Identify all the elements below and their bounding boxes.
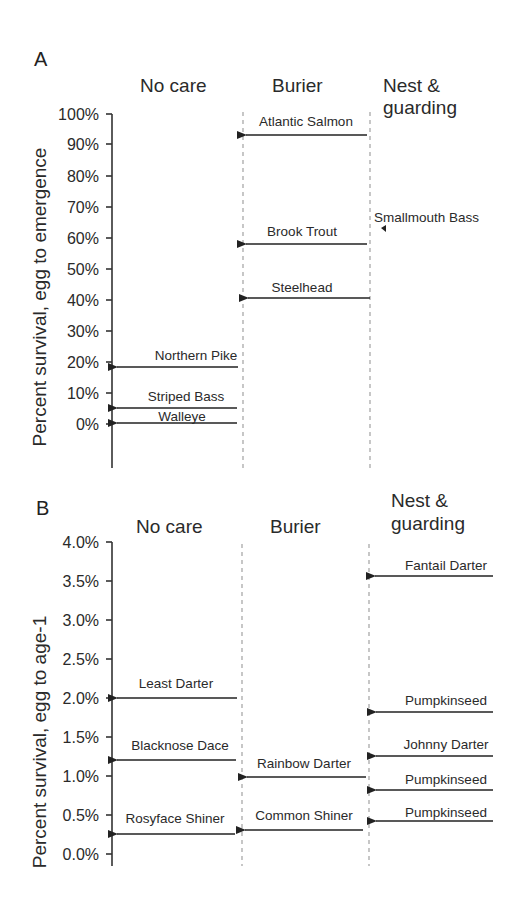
label-rainbow-darter: Rainbow Darter [257,756,351,771]
panel-b-y-axis-label: Percent survival, egg to age-1 [29,616,50,868]
label-brook-trout: Brook Trout [267,224,337,239]
tick-label: 3.0% [63,612,99,629]
label-fantail-darter: Fantail Darter [405,558,487,573]
label-smallmouth-bass: Smallmouth Bass [374,210,479,225]
panel-b-group-nest-line1: Nest & [391,490,448,511]
tick-label: 30% [67,323,99,340]
tick-label: 2.5% [63,651,99,668]
label-pumpkinseed-2: Pumpkinseed [405,772,487,787]
tick-label: 0% [76,416,99,433]
tick-label: 2.0% [63,690,99,707]
panel-a-ticks [106,114,112,424]
panel-a-y-axis-label: Percent survival, egg to emergence [29,148,50,447]
panel-b-group-nest-line2: guarding [391,513,465,534]
tick-label: 1.5% [63,729,99,746]
panel-a-group-nest-line2: guarding [383,97,457,118]
tick-label: 40% [67,292,99,309]
tick-label: 100% [58,106,99,123]
tick-label: 10% [67,385,99,402]
label-rosyface-shiner: Rosyface Shiner [125,811,225,826]
tick-label: 0.5% [63,807,99,824]
label-walleye: Walleye [158,409,206,424]
panel-b: B No care Burier Nest & guarding Percent… [29,490,493,868]
panel-a: A No care Burier Nest & guarding Percent… [29,48,479,468]
panel-b-group-no-care: No care [136,516,203,537]
arrow-smallmouth-bass [381,225,386,232]
label-steelhead: Steelhead [272,280,333,295]
tick-label: 0.0% [63,846,99,863]
tick-label: 90% [67,136,99,153]
panel-a-letter: A [34,48,48,70]
label-blacknose-dace: Blacknose Dace [131,738,229,753]
panel-b-group-burier: Burier [270,516,321,537]
panel-a-tick-labels: 100% 90% 80% 70% 60% 50% 40% 30% 20% 10%… [58,106,99,433]
tick-label: 80% [67,168,99,185]
panel-a-group-nest-line1: Nest & [383,75,440,96]
label-common-shiner: Common Shiner [255,808,353,823]
tick-label: 50% [67,261,99,278]
tick-label: 60% [67,230,99,247]
panel-b-ticks [106,542,112,854]
tick-label: 3.5% [63,573,99,590]
tick-label: 4.0% [63,534,99,551]
label-pumpkinseed-3: Pumpkinseed [405,805,487,820]
panel-b-tick-labels: 4.0% 3.5% 3.0% 2.5% 2.0% 1.5% 1.0% 0.5% … [63,534,99,863]
label-northern-pike: Northern Pike [155,348,238,363]
tick-label: 20% [67,354,99,371]
label-atlantic-salmon: Atlantic Salmon [259,114,353,129]
label-striped-bass: Striped Bass [148,389,225,404]
tick-label: 1.0% [63,768,99,785]
panel-a-group-no-care: No care [140,75,207,96]
label-least-darter: Least Darter [139,676,214,691]
panel-b-letter: B [36,497,49,519]
tick-label: 70% [67,199,99,216]
figure: A No care Burier Nest & guarding Percent… [0,0,529,910]
label-johnny-darter: Johnny Darter [404,737,489,752]
panel-a-group-burier: Burier [272,75,323,96]
label-pumpkinseed-1: Pumpkinseed [405,693,487,708]
